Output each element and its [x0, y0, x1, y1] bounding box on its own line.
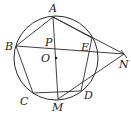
label-d: D: [83, 89, 93, 102]
center-dot: [55, 57, 58, 60]
label-n: N: [118, 58, 129, 71]
label-c: C: [20, 95, 29, 108]
label-e: E: [80, 41, 89, 54]
label-p: P: [44, 36, 53, 49]
segment-cd: [33, 91, 81, 93]
geometry-figure: A B C M D E N P O: [0, 0, 131, 114]
label-b: B: [4, 40, 13, 53]
label-a: A: [48, 2, 57, 15]
label-o: O: [41, 52, 50, 65]
segment-bn: [16, 46, 124, 54]
label-m: M: [51, 101, 64, 114]
